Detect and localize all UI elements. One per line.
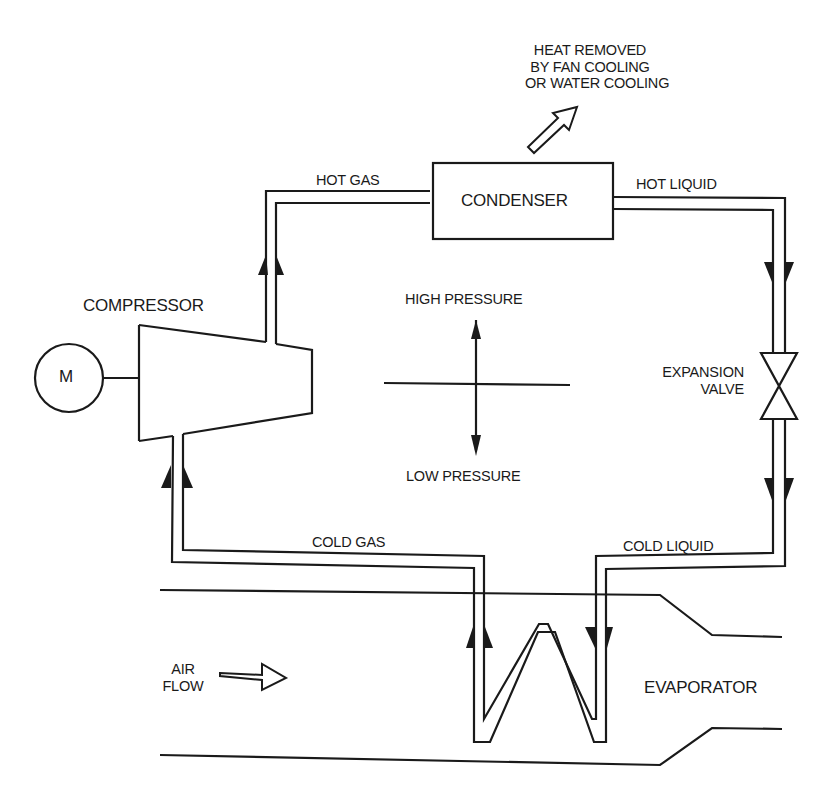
motor-label: M (59, 367, 73, 387)
hot-gas-pipe-outer (266, 191, 430, 342)
duct-top-wall (160, 590, 782, 637)
flow-arrow-up-icon (161, 465, 171, 488)
evaporator-coil-inner (484, 624, 596, 719)
heat-removed-line-1: HEAT REMOVED (525, 42, 655, 59)
hot-liquid-pipe-outer (613, 197, 785, 330)
hot-liquid-pipe-inner (613, 209, 773, 330)
compressor-body-icon (139, 325, 312, 441)
hot-liquid-label: HOT LIQUID (636, 176, 717, 193)
air-flow-line-1: AIR (158, 661, 208, 678)
cold-gas-label: COLD GAS (312, 534, 385, 551)
expansion-valve-line-2: VALVE (650, 381, 744, 398)
air-flow-arrow-icon (220, 664, 286, 690)
heat-removed-line-2: BY FAN COOLING (525, 59, 655, 76)
cold-liquid-label: COLD LIQUID (623, 538, 713, 555)
expansion-valve-line-1: EXPANSION (650, 364, 744, 381)
high-pressure-arrow-icon (471, 320, 481, 339)
heat-removed-arrow-icon (528, 107, 577, 153)
evaporator-label: EVAPORATOR (644, 678, 757, 698)
condenser-label: CONDENSER (461, 191, 568, 211)
hot-gas-pipe-inner (276, 203, 430, 344)
hot-gas-label: HOT GAS (316, 172, 380, 189)
high-pressure-label: HIGH PRESSURE (405, 291, 522, 308)
refrigeration-cycle-diagram: HEAT REMOVED BY FAN COOLING OR WATER COO… (0, 0, 827, 805)
flow-arrow-down-icon (764, 262, 772, 282)
cold-liquid-pipe-inner (606, 419, 785, 640)
expansion-valve-label: EXPANSION VALVE (650, 364, 744, 397)
compressor-label: COMPRESSOR (83, 296, 204, 316)
heat-removed-line-3: OR WATER COOLING (525, 75, 655, 92)
low-pressure-arrow-icon (471, 435, 481, 456)
low-pressure-label: LOW PRESSURE (406, 468, 520, 485)
expansion-valve-icon (761, 353, 797, 419)
duct-bottom-wall (160, 728, 782, 765)
air-flow-label: AIR FLOW (158, 661, 208, 694)
heat-removed-label: HEAT REMOVED BY FAN COOLING OR WATER COO… (525, 42, 655, 92)
flow-arrow-down-icon (585, 627, 595, 648)
evaporator-coil-outer (474, 632, 606, 742)
flow-arrow-up-icon (466, 627, 473, 648)
cold-liquid-pipe-outer (596, 419, 773, 640)
air-flow-line-2: FLOW (158, 678, 208, 695)
flow-arrow-down-icon (764, 478, 772, 500)
